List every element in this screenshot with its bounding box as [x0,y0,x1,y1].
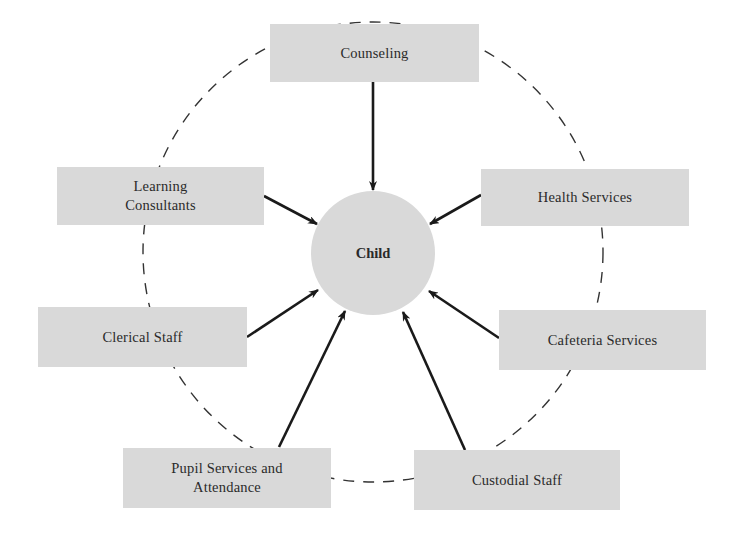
arrow-pupil [279,311,345,447]
node-label: Cafeteria Services [548,331,657,350]
node-label: Counseling [340,44,408,63]
arrow-clerical [247,290,318,337]
node-custodial-staff: Custodial Staff [414,450,620,510]
arrow-health [430,195,481,224]
node-learning-consultants: Learning Consultants [57,167,264,225]
node-label: Health Services [538,188,632,207]
arrow-custodial [403,312,465,450]
node-label: Clerical Staff [102,328,182,347]
node-health-services: Health Services [481,169,689,226]
node-clerical-staff: Clerical Staff [38,307,247,367]
arrow-learning [264,196,317,224]
node-label: Custodial Staff [472,471,562,490]
node-label: Learning Consultants [125,177,196,215]
hub-child: Child [311,191,435,315]
hub-label: Child [356,245,391,262]
node-pupil-services: Pupil Services and Attendance [123,448,331,508]
node-counseling: Counseling [270,24,479,82]
node-label: Pupil Services and Attendance [171,459,283,497]
arrow-cafeteria [429,291,499,338]
node-cafeteria-services: Cafeteria Services [499,310,706,370]
